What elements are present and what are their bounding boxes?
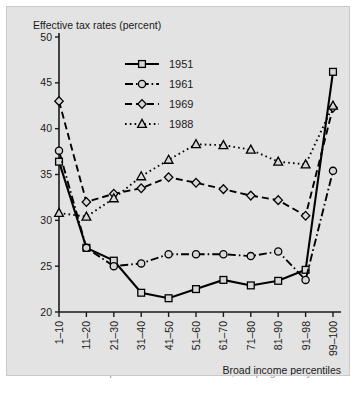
data-point	[302, 276, 309, 283]
data-point	[137, 184, 145, 193]
data-point	[275, 277, 282, 284]
figure-caption-strip: Effective tax rates for all percentiles …	[0, 376, 358, 404]
legend-label: 1988	[169, 118, 193, 130]
data-point	[83, 244, 90, 251]
y-axis-tick-label: 50	[40, 31, 52, 43]
series-line	[59, 151, 333, 280]
data-point	[137, 172, 146, 180]
data-point	[165, 251, 172, 258]
data-point	[247, 191, 255, 200]
legend-label: 1969	[169, 98, 193, 110]
x-axis-label: Broad income percentiles	[223, 364, 341, 375]
data-point	[274, 196, 282, 205]
y-axis-tick-label: 25	[40, 260, 52, 272]
figure-panel: Effective tax rates (percent) 2025303540…	[6, 6, 350, 376]
series-1961	[55, 147, 336, 283]
data-point	[247, 252, 254, 259]
legend-item-1969[interactable]: 1969	[125, 98, 193, 110]
plot-area: Effective tax rates (percent) 2025303540…	[7, 7, 349, 375]
data-point	[110, 263, 117, 270]
x-axis-tick-label: 51–60	[190, 321, 202, 350]
legend-item-1988[interactable]: 1988	[125, 118, 193, 130]
x-axis-tick-label: 91–98	[300, 321, 312, 350]
x-axis-tick-label: 1–10	[53, 321, 65, 345]
data-point	[329, 167, 336, 174]
chart-title: Effective tax rates (percent)	[33, 19, 161, 31]
x-axis-tick-label: 11–20	[80, 321, 92, 350]
line-chart: Effective tax rates (percent) 2025303540…	[7, 7, 349, 375]
data-point	[193, 286, 200, 293]
data-point	[55, 147, 62, 154]
data-point	[220, 277, 227, 284]
chart-legend: 1951196119691988	[125, 58, 193, 130]
data-point	[329, 101, 338, 109]
x-axis-tick-label: 71–80	[245, 321, 257, 350]
data-point	[220, 251, 227, 258]
x-axis-label-group: Broad income percentiles	[223, 364, 341, 375]
data-point	[55, 208, 64, 216]
series-group	[55, 68, 338, 301]
y-axis: 20253035404550	[40, 31, 59, 318]
legend-item-1961[interactable]: 1961	[125, 78, 193, 90]
data-point	[165, 295, 172, 302]
series-1969	[55, 97, 337, 220]
x-axis-tick-label: 99–100	[327, 321, 339, 356]
chart-page: Effective tax rates (percent) 2025303540…	[0, 0, 358, 404]
data-point	[55, 97, 63, 106]
legend-marker	[138, 80, 145, 87]
x-axis-tick-label: 81–90	[272, 321, 284, 350]
y-axis-tick-label: 20	[40, 306, 52, 318]
data-point	[301, 160, 310, 168]
legend-label: 1951	[169, 58, 193, 70]
data-point	[192, 251, 199, 258]
data-point	[275, 248, 282, 255]
legend-item-1951[interactable]: 1951	[125, 58, 193, 70]
y-axis-tick-label: 35	[40, 168, 52, 180]
data-point	[138, 260, 145, 267]
x-axis-tick-label: 31–40	[135, 321, 147, 350]
y-axis-tick-label: 40	[40, 122, 52, 134]
series-1988	[55, 101, 338, 220]
series-line	[59, 101, 333, 216]
chart-title-group: Effective tax rates (percent)	[33, 19, 161, 31]
data-point	[219, 185, 227, 194]
data-point	[164, 173, 172, 182]
legend-marker	[139, 61, 146, 68]
y-axis-tick-label: 45	[40, 76, 52, 88]
data-point	[138, 289, 145, 296]
x-axis-tick-label: 41–50	[163, 321, 175, 350]
data-point	[192, 178, 200, 187]
data-point	[330, 68, 337, 75]
figure-caption: Effective tax rates for all percentiles …	[0, 376, 358, 378]
data-point	[301, 211, 309, 220]
series-line	[59, 106, 333, 217]
data-point	[82, 198, 90, 207]
data-point	[247, 282, 254, 289]
x-axis: 1–1011–2021–3031–4041–5051–6061–7071–808…	[53, 312, 341, 356]
x-axis-tick-label: 21–30	[108, 321, 120, 350]
legend-label: 1961	[169, 78, 193, 90]
data-point	[192, 140, 201, 148]
data-point	[164, 155, 173, 163]
x-axis-tick-label: 61–70	[217, 321, 229, 350]
y-axis-tick-label: 30	[40, 214, 52, 226]
legend-marker	[138, 100, 146, 109]
